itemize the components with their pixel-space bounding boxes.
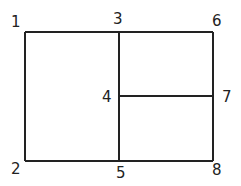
vertex-label-2: 2 [11,162,21,177]
vertex-label-7: 7 [222,90,232,105]
vertex-label-6: 6 [212,14,222,29]
vertex-label-3: 3 [113,12,123,27]
vertex-label-1: 1 [11,15,21,30]
vertex-label-8: 8 [212,163,222,178]
vertex-label-5: 5 [116,166,126,181]
vertex-label-4: 4 [102,90,112,105]
